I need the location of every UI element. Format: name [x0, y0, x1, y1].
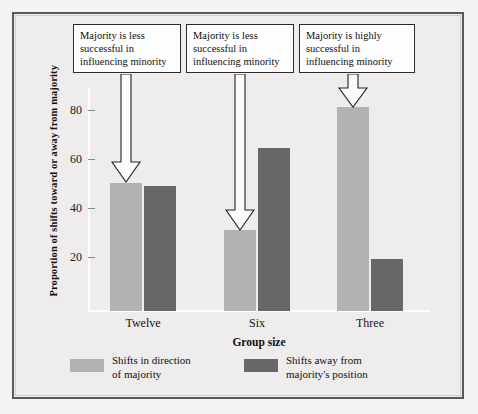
figure-canvas: 80 60 40 20 Proportion of shifts toward … [0, 0, 478, 414]
callout-three-line1: Majority is highly [306, 29, 409, 42]
callout-six-line1: Majority is less [193, 29, 288, 42]
callout-three-line3: influencing minority [306, 55, 409, 68]
x-axis-title: Group size [88, 336, 430, 348]
legend-swatch-away [244, 359, 278, 372]
callout-six: Majority is less successful in influenci… [186, 24, 294, 73]
callout-three-line2: successful in [306, 42, 409, 55]
callout-twelve-line3: influencing minority [80, 55, 175, 68]
bar-three-away [371, 259, 403, 311]
legend-label-toward-line2: of majority [112, 368, 191, 382]
callout-twelve-line2: successful in [80, 42, 175, 55]
chart-legend: Shifts in direction of majority Shifts a… [70, 355, 400, 389]
bar-six-toward [224, 230, 256, 311]
y-tick-80 [88, 110, 95, 111]
x-tick-label-twelve: Twelve [98, 316, 188, 331]
legend-label-away-line2: majority's position [286, 368, 368, 382]
legend-label-toward: Shifts in direction of majority [112, 354, 191, 382]
x-tick-label-three: Three [325, 316, 415, 331]
callout-twelve: Majority is less successful in influenci… [73, 24, 181, 73]
y-axis-line [88, 88, 90, 312]
legend-label-away: Shifts away from majority's position [286, 354, 368, 382]
legend-swatch-toward [70, 359, 104, 372]
callout-six-line2: successful in [193, 42, 288, 55]
callout-three: Majority is highly successful in influen… [299, 24, 415, 73]
bar-chart-plot: 80 60 40 20 Proportion of shifts toward … [0, 0, 478, 414]
callout-arrow-six [224, 74, 256, 234]
bar-twelve-toward [110, 183, 142, 311]
callout-twelve-line1: Majority is less [80, 29, 175, 42]
y-tick-20 [88, 257, 95, 258]
callout-arrow-twelve [110, 74, 142, 186]
y-axis-title: Proportion of shifts toward or away from… [48, 67, 59, 297]
bar-six-away [258, 148, 290, 311]
y-tick-40 [88, 208, 95, 209]
callout-arrow-three [337, 74, 369, 110]
callout-six-line3: influencing minority [193, 55, 288, 68]
legend-label-toward-line1: Shifts in direction [112, 354, 191, 368]
x-tick-label-six: Six [212, 316, 302, 331]
legend-label-away-line1: Shifts away from [286, 354, 368, 368]
bar-three-toward [337, 107, 369, 311]
bar-twelve-away [144, 186, 176, 311]
y-tick-60 [88, 159, 95, 160]
